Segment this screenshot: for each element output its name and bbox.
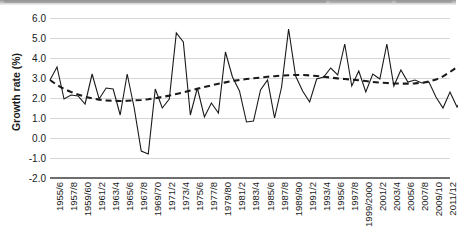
x-tick-label: 1995/6 [335, 182, 346, 211]
y-tick-label: 0.0 [32, 133, 46, 144]
x-tick-label: 2009/10 [433, 182, 444, 216]
x-tick-label: 1993/4 [321, 182, 332, 211]
y-tick-label: 3.0 [32, 73, 46, 84]
x-tick-label: 1987/8 [279, 182, 290, 211]
x-tick-label: 1991/2 [307, 182, 318, 211]
y-tick-label: 2.0 [32, 93, 46, 104]
x-tick-label: 1975/6 [194, 182, 205, 211]
y-tick-label: 6.0 [32, 13, 46, 24]
y-tick-label: -1.0 [29, 153, 46, 164]
x-tick-label: 1979/80 [222, 182, 233, 216]
y-tick-label: 4.0 [32, 53, 46, 64]
x-tick-label: 2001/2 [377, 182, 388, 211]
x-tick-label: 1971/2 [166, 182, 177, 211]
x-tick-label: 1959/60 [82, 182, 93, 216]
x-tick-label: 1985/6 [265, 182, 276, 211]
plot-area: 6.05.04.03.02.01.00.0-1.0-2.0 [50, 18, 450, 178]
x-tick-label: 1967/8 [138, 182, 149, 211]
x-tick-label: 1961/2 [96, 182, 107, 211]
x-tick-label: 2007/8 [419, 182, 430, 211]
x-tick-label: 1973/4 [180, 182, 191, 211]
y-axis-title: Growth rate (%) [10, 27, 22, 157]
x-tick-label: 1989/90 [293, 182, 304, 216]
growth-rate-line [50, 29, 458, 154]
polynomial-trend-line [50, 61, 458, 101]
scan-page-edge [0, 0, 456, 5]
x-axis-tick-labels: 1955/61957/81959/601961/21963/41965/6196… [50, 182, 450, 243]
x-tick-label: 1977/8 [208, 182, 219, 211]
x-tick-label: 2005/6 [405, 182, 416, 211]
x-tick-label: 1997/8 [349, 182, 360, 211]
x-tick-label: 1965/6 [124, 182, 135, 211]
y-tick-label: 1.0 [32, 113, 46, 124]
series-lines [50, 18, 450, 178]
x-tick-label: 1981/2 [236, 182, 247, 211]
y-tick-label: -2.0 [29, 173, 46, 184]
x-tick-label: 1969/70 [152, 182, 163, 216]
x-tick-label: 1957/8 [68, 182, 79, 211]
x-tick-label: 1963/4 [110, 182, 121, 211]
x-tick-label: 2003/4 [391, 182, 402, 211]
y-tick-label: 5.0 [32, 33, 46, 44]
x-tick-label: 1955/6 [54, 182, 65, 211]
x-tick-label: 1999/2000 [363, 182, 374, 227]
x-tick-label: 2011/12 [447, 182, 458, 216]
x-tick-label: 1983/4 [250, 182, 261, 211]
